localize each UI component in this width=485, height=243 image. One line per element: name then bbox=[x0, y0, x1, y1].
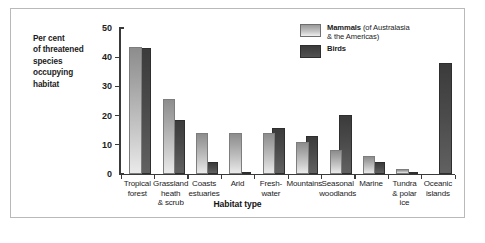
legend-mammals-bold: Mammals bbox=[327, 23, 361, 32]
bar-mammals bbox=[263, 133, 275, 174]
bar-mammals bbox=[163, 99, 175, 173]
legend-swatch-mammals bbox=[300, 24, 321, 37]
y-axis-caption-line-0: Per cent bbox=[33, 33, 113, 44]
y-tick-label-50: 50 bbox=[102, 23, 112, 33]
legend-item-mammals: Mammals (of Australasia & the Americas) bbox=[300, 23, 450, 39]
chart-panel: Per centof threatenedspeciesoccupyinghab… bbox=[10, 8, 465, 218]
bar-mammals bbox=[129, 47, 141, 174]
x-axis-title: Habitat type bbox=[11, 199, 464, 209]
y-tick-40 bbox=[115, 57, 120, 58]
bar-group bbox=[154, 28, 187, 174]
bar-group bbox=[121, 28, 154, 174]
bar-mammals bbox=[296, 142, 308, 174]
y-tick-30 bbox=[115, 86, 120, 87]
legend-mammals-rest: (of Australasia bbox=[361, 23, 410, 32]
bar-mammals bbox=[330, 150, 342, 173]
legend-label-mammals: Mammals (of Australasia & the Americas) bbox=[327, 23, 410, 42]
bar-mammals bbox=[363, 156, 375, 174]
legend-mammals-line2: & the Americas) bbox=[327, 32, 410, 41]
bar-birds bbox=[439, 63, 451, 174]
bar-mammals bbox=[229, 133, 241, 174]
y-tick-label-0: 0 bbox=[107, 169, 112, 179]
y-tick-label-30: 30 bbox=[102, 81, 112, 91]
y-tick-10 bbox=[115, 144, 120, 145]
y-tick-20 bbox=[115, 115, 120, 116]
y-tick-label-40: 40 bbox=[102, 52, 112, 62]
y-axis-caption-line-3: occupying bbox=[33, 67, 113, 78]
legend-birds-bold: Birds bbox=[327, 44, 346, 53]
legend-label-birds: Birds bbox=[327, 44, 346, 53]
bar-mammals bbox=[396, 169, 408, 173]
legend-swatch-birds bbox=[300, 45, 321, 58]
bar-mammals bbox=[196, 133, 208, 174]
bar-group bbox=[221, 28, 254, 174]
bar-group bbox=[254, 28, 287, 174]
legend: Mammals (of Australasia & the Americas) … bbox=[300, 23, 450, 65]
legend-item-birds: Birds bbox=[300, 44, 450, 60]
y-tick-label-20: 20 bbox=[102, 111, 112, 121]
category-label: Oceanicislands bbox=[417, 179, 458, 198]
y-tick-label-10: 10 bbox=[102, 140, 112, 150]
bar-group bbox=[187, 28, 220, 174]
